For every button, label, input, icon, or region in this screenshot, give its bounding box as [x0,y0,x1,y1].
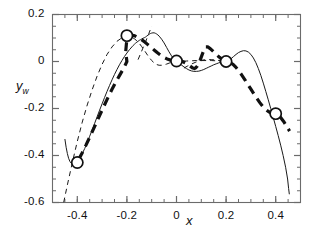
x-tick-label: -0.2 [105,209,149,221]
y-tick-label: -0.2 [5,101,45,113]
y-tick-label: -0.4 [5,148,45,160]
y-tick-label: -0.6 [5,195,45,207]
data-marker [171,55,182,66]
y-tick-label: 0.2 [5,7,45,19]
y-axis-label: yw [16,78,29,96]
series-group [64,26,290,202]
series-thick-dashed-curve [79,35,177,160]
plot-frame [53,15,301,203]
x-tick-label: -0.4 [55,209,99,221]
chart-canvas [0,0,317,238]
marker-group [72,30,282,168]
series-dashed-thin-curve [64,36,226,202]
data-marker [221,56,232,67]
data-marker [270,108,281,119]
x-tick-label: 0.2 [204,209,248,221]
x-tick-label: 0 [155,209,199,221]
x-tick-label: 0.4 [254,209,298,221]
data-marker [121,30,132,41]
y-tick-label: 0 [5,54,45,66]
tick-marks [53,15,301,203]
y-axis-label-subscript: w [23,86,29,96]
data-marker [72,157,83,168]
figure: yw x 0.20-0.2-0.4-0.6 -0.4-0.200.20.4 [0,0,317,238]
